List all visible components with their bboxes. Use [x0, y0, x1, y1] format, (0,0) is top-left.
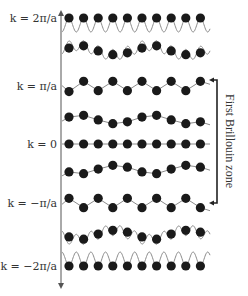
atom — [196, 228, 205, 237]
atom — [123, 194, 132, 203]
atom — [64, 44, 73, 53]
atom — [137, 44, 146, 53]
atom — [64, 113, 73, 122]
atom — [94, 194, 103, 203]
atom — [152, 194, 161, 203]
atom — [167, 139, 176, 148]
atom — [108, 203, 117, 212]
atom — [94, 115, 103, 124]
atom — [196, 139, 205, 148]
atom — [123, 86, 132, 95]
atom — [181, 161, 190, 170]
k-label: k = 0 — [27, 138, 57, 151]
atom — [64, 13, 73, 22]
atom — [123, 139, 132, 148]
atom — [167, 115, 176, 124]
mode-row — [62, 41, 210, 60]
atom — [196, 117, 205, 126]
mode-row — [62, 111, 210, 129]
mode-row — [62, 139, 210, 148]
atom — [137, 139, 146, 148]
brillouin-zone-bracket: First Brillouin zone — [209, 78, 237, 206]
atom — [79, 13, 88, 22]
atom — [108, 139, 117, 148]
atom — [94, 13, 103, 22]
atom — [79, 203, 88, 212]
atom — [167, 77, 176, 86]
k-label: k = −2π/a — [0, 260, 57, 273]
mode-rows — [62, 13, 210, 270]
k-labels: k = 2π/ak = π/ak = 0k = −π/ak = −2π/a — [0, 12, 57, 273]
atom — [108, 261, 117, 270]
atom — [108, 226, 117, 235]
atom — [152, 86, 161, 95]
atom — [152, 169, 161, 178]
atom — [152, 111, 161, 120]
bracket-line — [211, 80, 217, 203]
brillouin-zone-label: First Brillouin zone — [223, 94, 237, 188]
atom — [108, 77, 117, 86]
atom — [108, 50, 117, 59]
atom — [152, 235, 161, 244]
atom — [167, 230, 176, 239]
atom — [196, 203, 205, 212]
atom — [64, 167, 73, 176]
atom — [152, 13, 161, 22]
atom — [181, 226, 190, 235]
atom — [167, 46, 176, 55]
atom — [79, 77, 88, 86]
atom — [79, 41, 88, 50]
atom — [152, 261, 161, 270]
k-label: k = −π/a — [7, 197, 57, 210]
atom — [64, 139, 73, 148]
atom — [108, 13, 117, 22]
mode-row — [62, 77, 210, 96]
atom — [196, 77, 205, 86]
atom — [181, 261, 190, 270]
mode-row — [62, 226, 210, 245]
brillouin-zone-diagram: k = 2π/ak = π/ak = 0k = −π/ak = −2π/a Fi… — [0, 0, 248, 296]
atom — [181, 119, 190, 128]
atom — [79, 235, 88, 244]
atom — [196, 48, 205, 57]
atom — [79, 139, 88, 148]
atom — [79, 169, 88, 178]
atom — [181, 86, 190, 95]
atom — [152, 139, 161, 148]
atom — [137, 232, 146, 241]
atom — [64, 87, 73, 96]
atom — [137, 261, 146, 270]
atom — [181, 13, 190, 22]
atom — [108, 161, 117, 170]
atom — [181, 139, 190, 148]
bracket-bottom-tick-icon — [209, 201, 214, 206]
atom — [137, 203, 146, 212]
atom — [123, 13, 132, 22]
atom — [123, 117, 132, 126]
atom — [108, 119, 117, 128]
atom — [181, 194, 190, 203]
bracket-top-tick-icon — [209, 78, 214, 83]
atom — [64, 194, 73, 203]
atom — [167, 165, 176, 174]
atom — [64, 232, 73, 241]
atom — [137, 113, 146, 122]
atom — [196, 261, 205, 270]
atom — [123, 261, 132, 270]
atom — [167, 203, 176, 212]
atom — [79, 111, 88, 120]
atom — [137, 13, 146, 22]
atom — [94, 230, 103, 239]
atom — [137, 167, 146, 176]
atom — [94, 261, 103, 270]
k-label: k = 2π/a — [10, 12, 58, 25]
atom — [123, 48, 132, 57]
atom — [79, 261, 88, 270]
atom — [94, 139, 103, 148]
atom — [94, 165, 103, 174]
atom — [196, 13, 205, 22]
mode-row — [62, 13, 210, 32]
atom — [167, 13, 176, 22]
atom — [94, 46, 103, 55]
k-label: k = π/a — [17, 80, 58, 93]
